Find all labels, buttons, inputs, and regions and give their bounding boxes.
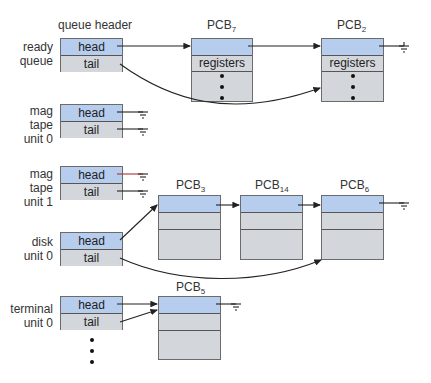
pointer-links bbox=[0, 0, 431, 383]
null-pointer-icons bbox=[138, 42, 409, 310]
